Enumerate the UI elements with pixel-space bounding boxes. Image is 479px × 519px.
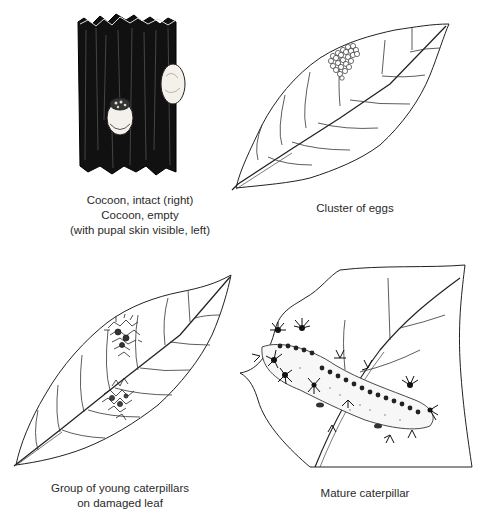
caption-mature-caterpillar: Mature caterpillar [300, 486, 430, 501]
caption-line: Group of young caterpillars [40, 481, 200, 496]
panel-mature-caterpillar: Mature caterpillar [240, 260, 479, 519]
leaf-with-young-caterpillars-illustration [0, 260, 240, 475]
panel-eggs: Cluster of eggs [0, 0, 479, 250]
caption-young-caterpillars: Group of young caterpillars on damaged l… [40, 481, 200, 511]
damaged-leaf-with-caterpillar-illustration [240, 260, 479, 475]
caption-line: Cluster of eggs [280, 201, 430, 216]
panel-young-caterpillars: Group of young caterpillars on damaged l… [0, 260, 240, 519]
caption-line: on damaged leaf [40, 496, 200, 511]
leaf-with-eggs-illustration [0, 0, 479, 200]
caption-line: Mature caterpillar [300, 486, 430, 501]
caption-eggs: Cluster of eggs [280, 201, 430, 216]
leaf-icon [16, 275, 231, 465]
